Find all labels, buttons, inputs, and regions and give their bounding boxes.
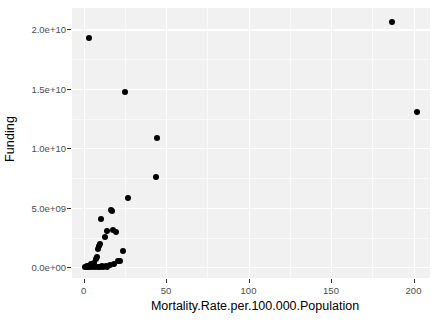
x-axis-tick-mark (414, 279, 415, 283)
x-axis-title: Mortality.Rate.per.100.000.Population (72, 299, 438, 313)
data-point (95, 246, 101, 252)
gridline-minor-vertical (290, 8, 291, 278)
data-point (86, 35, 92, 41)
y-axis-tick-mark (67, 267, 71, 268)
gridline-major-horizontal (72, 29, 430, 30)
y-axis-tick-label: 0.0e+00 (18, 262, 66, 273)
x-axis-tick-label: 100 (241, 285, 257, 296)
gridline-minor-horizontal (72, 238, 430, 239)
x-axis-tick-label: 0 (81, 285, 86, 296)
data-point (122, 89, 128, 95)
x-axis-title-text: Mortality.Rate.per.100.000.Population (151, 299, 359, 313)
gridline-major-vertical (84, 8, 85, 278)
data-point (154, 135, 160, 141)
gridline-major-vertical (166, 8, 167, 278)
y-axis-tick-label: 2.0e+10 (18, 24, 66, 35)
y-axis-tick-label: 1.5e+10 (18, 83, 66, 94)
gridline-minor-horizontal (72, 59, 430, 60)
y-axis-tick-mark (67, 208, 71, 209)
y-axis-title-text: Funding (3, 116, 17, 162)
y-axis-tick-labels: 0.0e+005.0e+091.0e+101.5e+102.0e+10 (16, 0, 66, 328)
x-axis-tick-label: 200 (406, 285, 422, 296)
data-point (414, 109, 420, 115)
gridline-major-vertical (414, 8, 415, 278)
y-axis-tick-mark (67, 29, 71, 30)
gridline-major-horizontal (72, 148, 430, 149)
x-axis-tick-mark (331, 279, 332, 283)
data-point (117, 258, 123, 264)
data-point (108, 207, 114, 213)
plot-panel (72, 8, 430, 278)
data-point (102, 234, 108, 240)
gridline-major-vertical (331, 8, 332, 278)
data-point (389, 19, 395, 25)
gridline-minor-vertical (125, 8, 126, 278)
gridline-minor-horizontal (72, 178, 430, 179)
x-axis-tick-label: 150 (323, 285, 339, 296)
data-point (153, 174, 159, 180)
y-axis-tick-label: 5.0e+09 (18, 202, 66, 213)
x-axis-tick-mark (84, 279, 85, 283)
gridline-major-horizontal (72, 267, 430, 268)
y-axis-tick-mark (67, 148, 71, 149)
gridline-major-horizontal (72, 208, 430, 209)
data-point (98, 216, 104, 222)
gridline-minor-horizontal (72, 119, 430, 120)
data-point (125, 195, 131, 201)
x-axis-tick-mark (249, 279, 250, 283)
y-axis-tick-mark (67, 89, 71, 90)
scatter-plot-figure: Funding 0.0e+005.0e+091.0e+101.5e+102.0e… (0, 0, 438, 328)
x-axis-tick-mark (166, 279, 167, 283)
y-axis-tick-label: 1.0e+10 (18, 143, 66, 154)
gridline-minor-vertical (372, 8, 373, 278)
data-point (104, 264, 110, 270)
gridline-minor-vertical (207, 8, 208, 278)
gridline-major-vertical (249, 8, 250, 278)
data-point (120, 248, 126, 254)
data-point (113, 229, 119, 235)
x-axis-tick-label: 50 (161, 285, 172, 296)
